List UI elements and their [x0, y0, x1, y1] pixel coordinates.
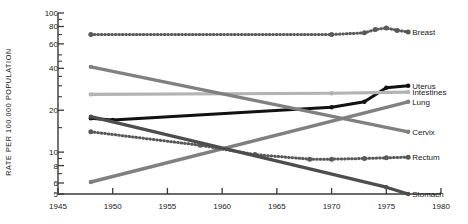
data-point-rectum — [329, 157, 334, 162]
series-label-rectum: Rectum — [412, 153, 440, 162]
series-label-lung: Lung — [412, 97, 430, 106]
data-point-cervix — [89, 65, 93, 69]
data-point-stomach — [406, 192, 410, 196]
data-point-rectum — [88, 129, 93, 134]
data-point-uterus — [384, 86, 388, 90]
data-point-uterus — [406, 84, 410, 88]
series-line-lung — [91, 102, 408, 182]
data-point-lung — [406, 100, 410, 104]
series-line-stomach — [91, 117, 408, 194]
data-point-breast — [329, 32, 334, 37]
series-label-breast: Breast — [412, 28, 435, 37]
data-point-breast — [362, 30, 367, 35]
series-label-cervix: Cervix — [412, 127, 435, 136]
data-point-breast — [395, 28, 400, 33]
data-point-rectum — [307, 157, 312, 162]
data-point-lung — [89, 180, 93, 184]
series-line-cervix — [91, 67, 408, 132]
cancer-mortality-rate-chart: RATE PER 100,000 POPULATION 100806040201… — [0, 0, 468, 224]
data-point-intestines — [89, 92, 93, 96]
data-point-rectum — [406, 155, 411, 160]
series-line-intestines — [91, 92, 408, 94]
data-point-intestines — [329, 91, 333, 95]
data-point-rectum — [384, 155, 389, 160]
data-point-breast — [384, 26, 389, 31]
data-point-breast — [406, 30, 411, 35]
series-label-intestines: Intestines — [412, 88, 446, 97]
data-point-rectum — [362, 156, 367, 161]
series-label-stomach: Stomach — [412, 190, 444, 199]
series-line-breast — [91, 28, 408, 35]
data-point-uterus — [362, 100, 366, 104]
data-point-breast — [88, 32, 93, 37]
plot-area — [0, 0, 468, 224]
data-point-breast — [373, 27, 378, 32]
data-point-cervix — [406, 130, 410, 134]
data-point-intestines — [406, 90, 410, 94]
data-point-stomach — [384, 185, 388, 189]
data-point-stomach — [89, 114, 93, 118]
data-point-uterus — [329, 105, 333, 109]
